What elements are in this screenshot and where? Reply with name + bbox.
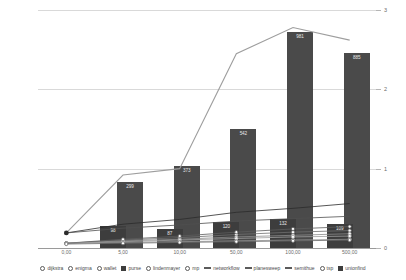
data-point-tsp [121,242,124,245]
legend-marker-circle-icon [68,266,73,271]
data-point-lindenmayer [235,231,238,234]
x-tick-label: 100,00 [285,249,300,255]
legend-item-enigma[interactable]: enigma [68,265,91,271]
x-tick-label: 50,00 [230,249,243,255]
data-point-wallet [348,235,351,238]
y-tick-mark [376,89,381,90]
legend-item-planesweep[interactable]: planesweep [245,265,281,271]
legend-marker-circle-icon [40,266,45,271]
legend-item-dijkstra[interactable]: dijkstra [40,265,63,271]
data-point-tsp [235,240,238,243]
legend-label: lindenmayer [153,265,180,271]
x-tick-label: 0,00 [61,249,71,255]
legend-marker-square-icon [121,266,126,271]
legend-item-networkflow[interactable]: networkflow [204,265,239,271]
data-point-tsp [65,242,68,245]
legend-marker-circle-icon [97,266,102,271]
chart-container: 2993735429818859887120132109 0123 0,005,… [0,0,406,280]
legend-item-semithue[interactable]: semithue [285,265,314,271]
y-tick-label: 1 [384,166,387,172]
y-tick-label: 2 [384,86,387,92]
legend-label: enigma [75,265,91,271]
data-point-dijkstra [348,229,351,232]
x-tick-label: 500,00 [342,249,357,255]
legend-label: dijkstra [47,265,63,271]
legend-label: semithue [294,265,314,271]
legend-label: networkflow [213,265,239,271]
legend-item-tsp[interactable]: tsp [320,265,334,271]
plot-area: 2993735429818859887120132109 [38,10,378,248]
data-point-lindenmayer [291,227,294,230]
legend-marker-square-icon [338,266,343,271]
origin-data-point [64,231,69,236]
legend-marker-line-icon [285,267,292,268]
y-tick-mark [376,169,381,170]
chart-legend: dijkstraenigmawalletpurselindenmayermpne… [0,262,406,274]
line-series-planesweep [66,216,349,233]
legend-item-unionfind[interactable]: unionfind [338,265,365,271]
line-series-layer [38,10,378,248]
data-point-tsp [291,239,294,242]
data-point-tsp [178,241,181,244]
legend-item-purse[interactable]: purse [121,265,141,271]
x-axis: 0,005,0010,0050,00100,00500,00 [38,249,378,259]
legend-label: unionfind [345,265,365,271]
legend-marker-line-icon [245,267,252,268]
legend-label: purse [128,265,141,271]
legend-marker-circle-icon [146,266,151,271]
legend-item-mp[interactable]: mp [185,265,199,271]
x-tick-label: 10,00 [173,249,186,255]
legend-label: tsp [327,265,334,271]
data-point-tsp [348,238,351,241]
x-tick-label: 5,00 [118,249,128,255]
line-series-semithue [66,27,349,232]
legend-label: planesweep [254,265,281,271]
legend-marker-circle-icon [185,266,190,271]
data-point-lindenmayer [121,238,124,241]
data-point-lindenmayer [348,225,351,228]
data-point-wallet [291,235,294,238]
y-tick-mark [376,10,381,11]
legend-item-wallet[interactable]: wallet [97,265,117,271]
legend-item-lindenmayer[interactable]: lindenmayer [146,265,180,271]
legend-marker-circle-icon [320,266,325,271]
y-tick-label: 3 [384,7,387,13]
data-point-dijkstra [291,231,294,234]
data-point-lindenmayer [178,235,181,238]
legend-label: mp [192,265,199,271]
y-tick-label: 0 [384,245,387,251]
legend-label: wallet [104,265,117,271]
legend-marker-line-icon [204,267,211,268]
